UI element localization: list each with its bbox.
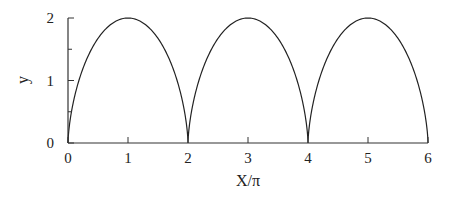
x-axis-ticks: 0123456 — [64, 137, 432, 166]
x-tick-label: 6 — [424, 150, 432, 166]
cycloid-curve — [68, 18, 428, 143]
y-tick-label: 0 — [47, 135, 55, 151]
x-tick-label: 1 — [124, 150, 132, 166]
x-tick-label: 0 — [64, 150, 72, 166]
axes: 0123456 012 — [47, 10, 433, 166]
x-axis-label: X/π — [236, 172, 260, 189]
plot-area — [68, 18, 428, 143]
y-axis-label: y — [14, 76, 32, 84]
x-tick-label: 5 — [364, 150, 372, 166]
x-tick-label: 2 — [184, 150, 192, 166]
cycloid-chart: 0123456 012 X/π y — [0, 0, 455, 198]
x-tick-label: 3 — [244, 150, 252, 166]
y-axis-ticks: 012 — [47, 10, 75, 151]
x-tick-label: 4 — [304, 150, 312, 166]
y-tick-label: 1 — [47, 73, 55, 89]
y-tick-label: 2 — [47, 10, 55, 26]
